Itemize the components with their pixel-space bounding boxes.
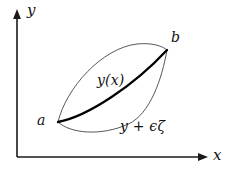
extremal-path-label: y(x) <box>97 73 125 87</box>
variational-path-figure: y x a b y(x) y + ϵζ <box>0 0 232 174</box>
endpoint-label-a: a <box>37 113 45 127</box>
endpoint-label-b: b <box>171 30 180 44</box>
varied-path-label: y + ϵζ <box>120 119 165 133</box>
x-axis-arrowhead-icon <box>198 153 208 161</box>
y-axis-label: y <box>27 3 35 18</box>
y-axis-arrowhead-icon <box>13 9 21 19</box>
x-axis-label: x <box>213 148 221 163</box>
